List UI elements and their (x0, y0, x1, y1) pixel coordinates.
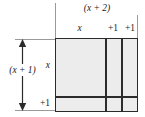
left-dimension-text: (x + 1) (9, 65, 35, 75)
grid-divider-vertical-1 (105, 39, 107, 111)
top-segment-label-x: x (55, 23, 104, 34)
grid-divider-horizontal-1 (56, 96, 137, 98)
top-dimension-text: (x + 2) (84, 3, 110, 13)
area-model-rectangle (55, 38, 138, 112)
left-segment-label-x: x (34, 60, 50, 71)
top-segment-label-plus-one-a: +1 (104, 23, 122, 34)
left-segment-label-plus-one: +1 (30, 98, 50, 109)
top-segment-label-plus-one-b: +1 (121, 23, 139, 34)
grid-divider-vertical-2 (121, 39, 123, 111)
top-dimension-label: (x + 2) (56, 2, 138, 15)
algebra-area-model-figure: (x + 2) x +1 +1 (x + 1) x +1 (0, 0, 145, 117)
